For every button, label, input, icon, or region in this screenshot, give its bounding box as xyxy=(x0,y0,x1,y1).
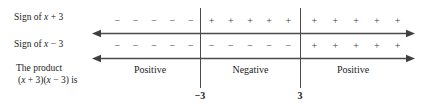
product-region-right: Positive xyxy=(301,64,405,76)
product-region-left: Positive xyxy=(100,64,200,76)
row-label-product: The product (x + 3)(x − 3) is xyxy=(16,62,78,86)
sign-glyph: − xyxy=(188,15,194,27)
sign-glyph: + xyxy=(312,40,318,52)
sign-glyph: − xyxy=(151,40,157,52)
sign-glyph: − xyxy=(266,40,272,52)
sign-strip-row1-right: + + + + + xyxy=(304,15,408,27)
sign-glyph: + xyxy=(332,15,338,27)
sign-glyph: − xyxy=(228,40,234,52)
divider-line-pos3 xyxy=(300,8,301,88)
sign-glyph: − xyxy=(151,15,157,27)
sign-glyph: − xyxy=(188,40,194,52)
number-line-row2 xyxy=(92,54,415,63)
right-arrowhead-row2 xyxy=(406,55,415,62)
sign-glyph: + xyxy=(266,15,272,27)
row-label-sign-x-plus-3: Sign of x + 3 xyxy=(14,12,63,23)
right-arrowhead-row1 xyxy=(406,30,415,37)
sign-glyph: + xyxy=(312,15,318,27)
left-arrowhead-row2 xyxy=(92,55,101,62)
sign-chart-figure: Sign of x + 3 Sign of x − 3 The product … xyxy=(0,0,425,109)
sign-glyph: + xyxy=(247,15,253,27)
product-close-text: − 3) is xyxy=(51,75,78,85)
row2-prefix-text: Sign of xyxy=(14,39,44,49)
sign-glyph: + xyxy=(286,15,292,27)
product-middle-text: + 3)( xyxy=(25,75,46,85)
sign-glyph: − xyxy=(133,40,139,52)
sign-glyph: − xyxy=(170,40,176,52)
sign-strip-row1-middle: + + + + + xyxy=(202,15,298,27)
sign-strip-row1-left: − − − − − xyxy=(108,15,200,27)
tick-label-pos3: 3 xyxy=(288,90,312,102)
tick-label-neg3: −3 xyxy=(186,90,214,102)
sign-glyph: + xyxy=(332,40,338,52)
row1-prefix-text: Sign of xyxy=(14,12,44,22)
sign-strip-row2-right: + + + + + xyxy=(304,40,408,52)
number-line-row1 xyxy=(92,29,415,38)
sign-strip-row2-left: − − − − − xyxy=(108,40,200,52)
row2-expression-rest: − 3 xyxy=(48,39,63,49)
row-label-sign-x-minus-3: Sign of x − 3 xyxy=(14,39,63,50)
sign-glyph: − xyxy=(114,15,120,27)
sign-glyph: − xyxy=(114,40,120,52)
product-label-line2: (x + 3)(x − 3) is xyxy=(16,74,78,86)
sign-glyph: + xyxy=(374,15,380,27)
product-region-middle: Negative xyxy=(201,64,300,76)
sign-strip-row2-middle: − − − − − xyxy=(202,40,298,52)
sign-glyph: + xyxy=(228,15,234,27)
sign-glyph: + xyxy=(395,40,401,52)
left-arrowhead-row1 xyxy=(92,30,101,37)
divider-line-neg3 xyxy=(200,8,201,88)
sign-glyph: + xyxy=(374,40,380,52)
sign-glyph: − xyxy=(286,40,292,52)
sign-glyph: + xyxy=(209,15,215,27)
sign-glyph: − xyxy=(133,15,139,27)
product-label-line1: The product xyxy=(16,62,78,74)
sign-glyph: + xyxy=(395,15,401,27)
sign-glyph: − xyxy=(247,40,253,52)
sign-glyph: − xyxy=(209,40,215,52)
sign-glyph: − xyxy=(170,15,176,27)
sign-glyph: + xyxy=(353,15,359,27)
sign-glyph: + xyxy=(353,40,359,52)
row1-expression-rest: + 3 xyxy=(48,12,63,22)
